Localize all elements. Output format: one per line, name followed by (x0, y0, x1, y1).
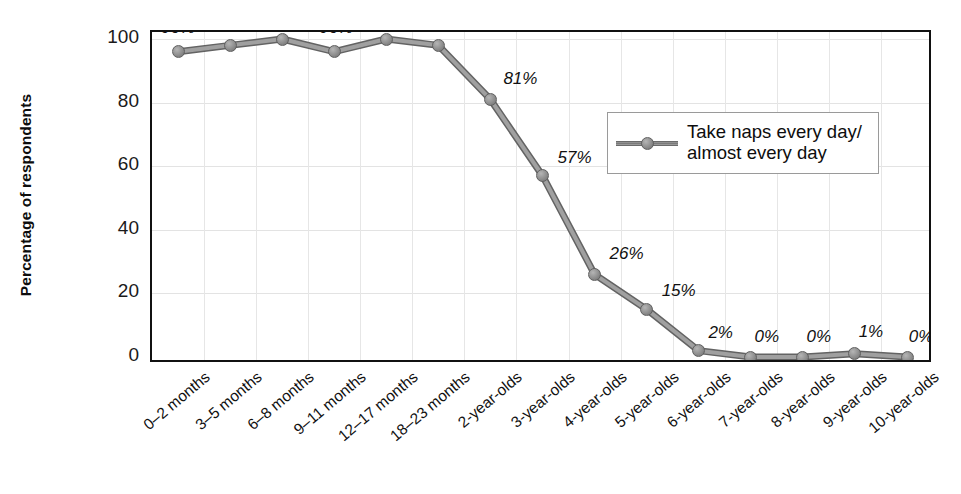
data-point-label: 98% (455, 32, 489, 35)
y-axis-tick: 80 (60, 90, 148, 112)
legend-label: Take naps every day/ almost every day (687, 122, 862, 163)
y-axis-title: Percentage of respondents (6, 0, 46, 390)
data-point-label: 0% (909, 327, 929, 347)
legend-swatch (616, 135, 678, 151)
data-point-marker (484, 93, 497, 106)
data-point-marker (432, 39, 445, 52)
data-point-label: 96% (319, 32, 353, 38)
data-point-marker (640, 303, 653, 316)
data-point-label: 15% (662, 281, 696, 301)
data-point-marker (224, 39, 237, 52)
data-point-marker (796, 351, 809, 361)
data-point-marker (692, 344, 705, 357)
data-point-marker (172, 45, 185, 58)
data-point-marker (328, 45, 341, 58)
y-axis-tick-labels: 020406080100 (60, 30, 148, 362)
series-markers: 96%98%100%96%100%98%81%57%26%15%2%0%0%1%… (152, 32, 929, 360)
data-point-label: 1% (859, 322, 884, 342)
legend-label-line2: almost every day (687, 143, 862, 164)
data-point-label: 0% (754, 327, 779, 347)
x-axis-tick-labels: 0–2 months3–5 months6–8 months9–11 month… (150, 362, 931, 494)
data-point-marker (588, 268, 601, 281)
data-point-marker (380, 33, 393, 46)
y-axis-tick: 100 (60, 26, 148, 48)
data-point-marker (901, 351, 914, 361)
data-point-label: 2% (708, 323, 733, 343)
data-point-marker (744, 351, 757, 361)
data-point-marker (848, 347, 861, 360)
y-axis-tick: 60 (60, 153, 148, 175)
chart-figure: Percentage of respondents 020406080100 9… (0, 0, 961, 494)
data-point-label: 81% (503, 69, 537, 89)
data-point-label: 0% (807, 327, 832, 347)
legend: Take naps every day/ almost every day (607, 112, 879, 174)
y-axis-tick: 40 (60, 217, 148, 239)
legend-label-line1: Take naps every day/ (687, 122, 862, 143)
plot-inner: 96%98%100%96%100%98%81%57%26%15%2%0%0%1%… (152, 32, 929, 360)
data-point-marker (536, 169, 549, 182)
y-axis-title-text: Percentage of respondents (17, 94, 35, 296)
legend-marker-icon (641, 137, 654, 150)
data-point-label: 26% (610, 244, 644, 264)
data-point-label: 96% (161, 32, 195, 38)
plot-area: 96%98%100%96%100%98%81%57%26%15%2%0%0%1%… (150, 30, 931, 362)
y-axis-tick: 20 (60, 280, 148, 302)
data-point-label: 57% (557, 148, 591, 168)
y-axis-tick: 0 (60, 344, 148, 366)
data-point-marker (276, 33, 289, 46)
